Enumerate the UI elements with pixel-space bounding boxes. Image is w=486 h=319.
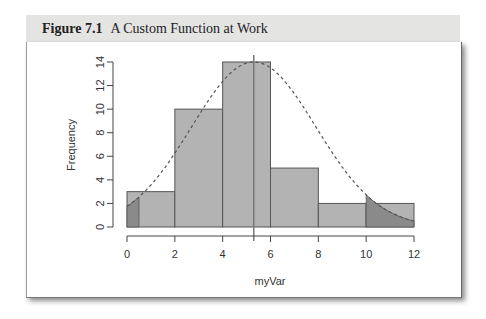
histogram-bar: [271, 168, 319, 227]
histogram-bar: [318, 203, 366, 227]
y-tick-label: 8: [94, 130, 106, 136]
y-tick-label: 10: [94, 103, 106, 115]
x-tick-label: 0: [124, 248, 130, 260]
y-axis: 02468101214: [94, 56, 113, 230]
histogram-bar: [175, 109, 223, 227]
histogram-bar: [223, 62, 271, 227]
x-tick-label: 4: [220, 248, 226, 260]
histogram-chart: 02468101214 024681012 Frequency myVar: [0, 0, 486, 319]
x-tick-label: 8: [315, 248, 321, 260]
y-tick-label: 2: [94, 200, 106, 206]
x-axis: 024681012: [124, 236, 420, 260]
x-axis-label: myVar: [255, 275, 286, 287]
x-tick-label: 12: [408, 248, 420, 260]
y-axis-label: Frequency: [65, 119, 77, 171]
x-tick-label: 6: [267, 248, 273, 260]
y-tick-label: 6: [94, 153, 106, 159]
y-tick-label: 4: [94, 177, 106, 183]
x-tick-label: 2: [172, 248, 178, 260]
x-tick-label: 10: [360, 248, 372, 260]
y-tick-label: 12: [94, 79, 106, 91]
y-tick-label: 14: [94, 56, 106, 68]
y-tick-label: 0: [94, 224, 106, 230]
